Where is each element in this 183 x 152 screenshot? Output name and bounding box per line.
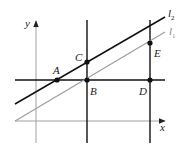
point-c [84,59,89,64]
point-c-label: C [75,51,83,63]
point-a [54,77,59,82]
diagram-canvas: y x l2 l1 A B C D E [0,0,183,152]
point-a-label: A [52,64,60,76]
line-l1 [15,32,165,121]
line-l1-label: l1 [169,25,176,40]
line-l1-label-sub: 1 [172,32,176,40]
point-e-label: E [153,47,161,59]
y-axis-label: y [24,17,30,29]
point-b-label: B [90,85,97,97]
x-axis-label: x [159,121,165,133]
point-d-label: D [138,85,147,97]
line-l2-label: l2 [168,7,175,22]
line-l2-label-sub: 2 [171,14,175,22]
point-d [147,77,152,82]
point-b [84,77,89,82]
point-e [147,40,152,45]
